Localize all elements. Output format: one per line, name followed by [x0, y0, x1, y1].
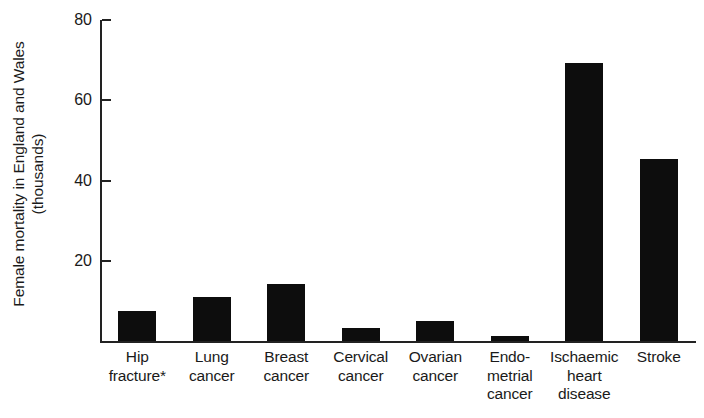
bar-1 — [193, 297, 231, 341]
y-tick-label-40: 40 — [54, 172, 92, 190]
y-axis-tick-40 — [102, 180, 111, 182]
bar-5 — [491, 336, 529, 341]
x-label-7: Stroke — [616, 348, 703, 367]
bar-4 — [416, 321, 454, 341]
x-axis-line — [100, 341, 696, 343]
y-axis-title-line-1: Female mortality in England and Wales — [10, 41, 27, 306]
x-label-line: heart — [541, 367, 628, 386]
bar-chart-figure: Female mortality in England and Wales (t… — [0, 0, 704, 418]
y-tick-label-80: 80 — [54, 11, 92, 29]
x-axis-tick-labels: Hipfracture*LungcancerBreastcancerCervic… — [100, 348, 696, 416]
bar-7 — [640, 159, 678, 341]
bar-2 — [267, 284, 305, 341]
y-tick-label-20: 20 — [54, 252, 92, 270]
y-tick-label-60: 60 — [54, 91, 92, 109]
y-axis-tick-20 — [102, 260, 111, 262]
y-axis-tick-80 — [102, 19, 111, 21]
bar-6 — [565, 63, 603, 341]
plot-area — [100, 20, 696, 343]
bar-3 — [342, 328, 380, 341]
x-label-line: disease — [541, 385, 628, 404]
y-axis-line — [100, 20, 102, 343]
y-axis-title: Female mortality in England and Wales (t… — [0, 0, 56, 348]
y-axis-tick-60 — [102, 99, 111, 101]
x-label-line: Stroke — [616, 348, 703, 367]
y-axis-title-line-2: (thousands) — [28, 41, 47, 306]
bar-0 — [118, 311, 156, 341]
